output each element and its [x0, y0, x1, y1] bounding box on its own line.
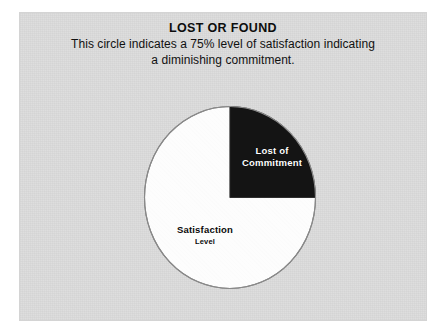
slide-heading-block: LOST OR FOUND This circle indicates a 75…: [20, 21, 426, 68]
pie-chart: Lost of Commitment Satisfaction Level: [143, 105, 317, 290]
presentation-slide: LOST OR FOUND This circle indicates a 75…: [20, 13, 426, 320]
pie-slice-lost-of-commitment: [230, 107, 316, 198]
pie-chart-svg: [143, 105, 317, 290]
scanned-page: LOST OR FOUND This circle indicates a 75…: [0, 0, 447, 335]
slide-subtitle-line-1: This circle indicates a 75% level of sat…: [20, 36, 426, 52]
page-title: LOST OR FOUND: [20, 21, 426, 36]
slide-subtitle-line-2: a diminishing commitment.: [20, 52, 426, 68]
